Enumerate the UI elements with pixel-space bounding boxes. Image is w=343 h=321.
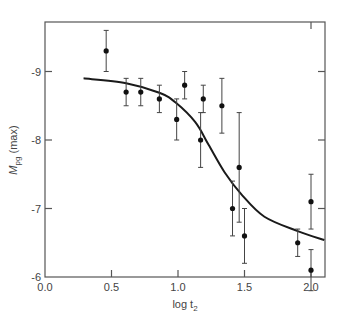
point-marker <box>124 89 129 94</box>
point-marker <box>219 103 224 108</box>
point-marker <box>308 199 313 204</box>
data-point <box>308 174 313 229</box>
fit-curve-path <box>84 78 325 240</box>
point-marker <box>295 240 300 245</box>
data-point <box>104 30 109 71</box>
y-axis-label: Mpg (max) <box>7 125 22 174</box>
data-point <box>295 229 300 256</box>
y-tick-label: -6 <box>31 271 41 283</box>
point-marker <box>242 233 247 238</box>
data-points <box>104 30 314 290</box>
point-marker <box>174 117 179 122</box>
point-marker <box>157 96 162 101</box>
y-axis-ticks: -9-8-7-6 <box>31 66 325 284</box>
data-point <box>138 78 143 105</box>
chart: 0.00.51.01.52.0 -9-8-7-6 log t2 Mpg (max… <box>0 0 343 321</box>
point-marker <box>201 96 206 101</box>
data-point <box>182 72 187 99</box>
point-marker <box>237 165 242 170</box>
fit-curve <box>84 78 325 240</box>
data-point <box>242 209 247 264</box>
x-tick-label: 0.5 <box>104 281 119 293</box>
data-point <box>230 181 235 236</box>
plot-frame <box>45 22 325 277</box>
data-point <box>201 85 206 112</box>
x-tick-label: 1.0 <box>170 281 185 293</box>
x-axis-label: log t2 <box>172 298 198 313</box>
data-point <box>237 113 242 223</box>
point-marker <box>138 89 143 94</box>
data-point <box>219 78 224 133</box>
point-marker <box>230 206 235 211</box>
x-tick-label: 1.5 <box>237 281 252 293</box>
y-tick-label: -7 <box>31 203 41 215</box>
data-point <box>157 85 162 112</box>
point-marker <box>308 268 313 273</box>
y-tick-label: -9 <box>31 66 41 78</box>
point-marker <box>182 83 187 88</box>
x-axis-ticks: 0.00.51.01.52.0 <box>37 22 318 293</box>
data-point <box>198 113 203 168</box>
point-marker <box>104 48 109 53</box>
y-tick-label: -8 <box>31 134 41 146</box>
point-marker <box>198 137 203 142</box>
